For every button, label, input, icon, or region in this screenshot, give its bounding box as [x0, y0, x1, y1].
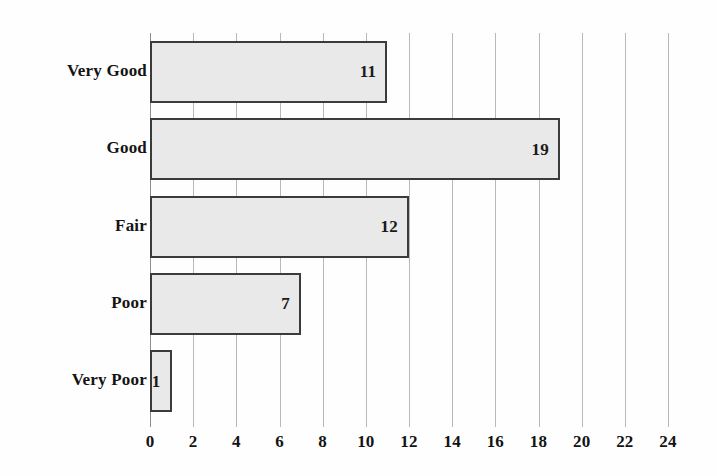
gridline	[668, 33, 669, 427]
x-tick-label: 10	[357, 432, 374, 452]
category-label: Poor	[9, 293, 147, 313]
x-tick-label: 4	[232, 432, 241, 452]
category-label: Very Poor	[9, 370, 147, 390]
bar-row: 12	[150, 196, 668, 258]
bar: 19	[150, 118, 560, 180]
bar-chart-figure: 11191271 Very GoodGoodFairPoorVery Poor …	[0, 0, 717, 476]
bar-row: 1	[150, 350, 668, 412]
x-tick-label: 2	[189, 432, 198, 452]
value-axis-labels: 024681012141618202224	[0, 432, 717, 462]
category-axis-labels: Very GoodGoodFairPoorVery Poor	[0, 33, 147, 420]
bar: 11	[150, 41, 387, 103]
x-tick-label: 6	[275, 432, 284, 452]
x-tick-label: 8	[318, 432, 327, 452]
bar: 12	[150, 196, 409, 258]
x-tick-label: 18	[530, 432, 547, 452]
bar-row: 11	[150, 41, 668, 103]
bar-row: 19	[150, 118, 668, 180]
x-tick-label: 0	[146, 432, 155, 452]
bar-value-label: 11	[360, 63, 386, 80]
bar-value-label: 7	[281, 295, 299, 312]
bar-value-label: 1	[152, 373, 170, 390]
bar-row: 7	[150, 273, 668, 335]
bar-value-label: 12	[380, 218, 407, 235]
x-tick-label: 12	[400, 432, 417, 452]
x-tick-label: 14	[443, 432, 460, 452]
category-label: Very Good	[9, 61, 147, 81]
x-tick-label: 16	[487, 432, 504, 452]
bar: 7	[150, 273, 301, 335]
x-tick-label: 22	[616, 432, 633, 452]
category-label: Fair	[9, 216, 147, 236]
x-tick-label: 24	[659, 432, 676, 452]
x-tick-label: 20	[573, 432, 590, 452]
bar: 1	[150, 350, 172, 412]
plot-area: 11191271	[150, 33, 668, 420]
category-label: Good	[9, 138, 147, 158]
bar-value-label: 19	[531, 141, 558, 158]
